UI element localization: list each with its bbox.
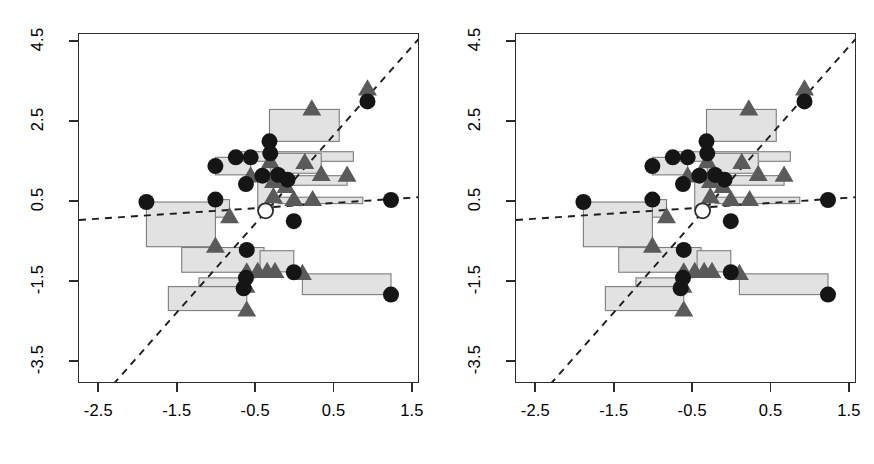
y-tick-label-text: 2.5 — [28, 97, 47, 143]
x-tick-label-right-0: -2.5 — [505, 401, 565, 420]
open-circle-group-right — [695, 203, 710, 218]
plot-area-left — [78, 33, 419, 383]
data-triangle — [358, 79, 377, 95]
y-tick-label-right-0: -3.5 — [451, 350, 497, 369]
y-tick-label-text: 4.5 — [465, 17, 484, 63]
data-point-circle — [254, 168, 270, 184]
fit-line-shallow-right — [516, 197, 856, 220]
data-point-circle — [359, 93, 375, 109]
y-tick-label-left-3: 2.5 — [14, 110, 60, 129]
data-triangle — [795, 79, 814, 95]
data-point-circle — [680, 149, 696, 165]
x-tick-left-3 — [333, 383, 335, 392]
x-tick-right-2 — [691, 383, 693, 392]
y-tick-label-text: 2.5 — [465, 97, 484, 143]
x-tick-label-left-0: -2.5 — [68, 401, 128, 420]
x-tick-label-left-4: 1.5 — [382, 401, 442, 420]
data-point-circle — [138, 194, 154, 210]
panel-left: -3.5-1.50.52.54.5-2.5-1.5-0.50.51.5 — [0, 0, 437, 464]
plot-area-right — [515, 33, 856, 383]
y-tick-label-text: -3.5 — [28, 336, 47, 382]
plot-canvas-right — [516, 34, 856, 383]
plot-canvas-left — [79, 34, 419, 383]
data-point-circle — [236, 280, 252, 296]
data-point-circle — [723, 264, 739, 280]
data-point-circle — [820, 192, 836, 208]
y-tick-label-left-1: -1.5 — [14, 270, 60, 289]
data-point-circle — [673, 280, 689, 296]
data-rectangle — [146, 202, 215, 247]
x-tick-right-4 — [848, 383, 850, 392]
data-point-circle — [383, 192, 399, 208]
y-tick-label-right-1: -1.5 — [451, 270, 497, 289]
x-tick-label-left-2: -0.5 — [225, 401, 285, 420]
y-tick-label-right-4: 4.5 — [451, 30, 497, 49]
data-point-circle — [239, 242, 255, 258]
y-tick-left-3 — [69, 120, 78, 122]
data-point-circle — [207, 192, 223, 208]
y-tick-right-2 — [506, 200, 515, 202]
x-tick-right-3 — [770, 383, 772, 392]
y-tick-left-0 — [69, 360, 78, 362]
data-triangle — [302, 99, 321, 115]
y-tick-label-left-0: -3.5 — [14, 350, 60, 369]
y-tick-left-2 — [69, 200, 78, 202]
data-point-circle — [207, 158, 223, 174]
data-point-circle — [262, 145, 278, 161]
x-tick-label-right-1: -1.5 — [584, 401, 644, 420]
x-tick-label-right-3: 0.5 — [741, 401, 801, 420]
y-tick-label-text: 0.5 — [465, 177, 484, 223]
data-point-circle — [575, 194, 591, 210]
data-rectangle — [583, 202, 652, 247]
y-tick-label-right-3: 2.5 — [451, 110, 497, 129]
data-point-circle — [383, 287, 399, 303]
data-point-circle — [286, 213, 302, 229]
y-tick-label-text: -1.5 — [28, 256, 47, 302]
data-point-circle — [665, 149, 681, 165]
y-tick-right-0 — [506, 360, 515, 362]
x-tick-label-left-3: 0.5 — [304, 401, 364, 420]
x-tick-label-right-2: -0.5 — [662, 401, 722, 420]
data-point-circle — [796, 93, 812, 109]
data-triangle — [338, 166, 357, 182]
y-tick-right-3 — [506, 120, 515, 122]
y-tick-label-right-2: 0.5 — [451, 190, 497, 209]
x-tick-label-left-1: -1.5 — [147, 401, 207, 420]
data-point-open-circle — [695, 203, 710, 218]
x-tick-left-1 — [176, 383, 178, 392]
x-tick-right-1 — [613, 383, 615, 392]
y-tick-left-4 — [69, 40, 78, 42]
y-tick-right-4 — [506, 40, 515, 42]
data-rectangle — [605, 287, 683, 311]
data-point-circle — [243, 149, 259, 165]
data-rectangle — [168, 287, 246, 311]
data-point-circle — [280, 172, 296, 188]
data-triangle — [739, 99, 758, 115]
y-tick-label-text: -3.5 — [465, 336, 484, 382]
data-point-circle — [691, 168, 707, 184]
y-tick-right-1 — [506, 280, 515, 282]
data-point-circle — [644, 192, 660, 208]
data-point-circle — [675, 176, 691, 192]
y-tick-left-1 — [69, 280, 78, 282]
x-tick-label-right-4: 1.5 — [819, 401, 874, 420]
data-point-circle — [820, 287, 836, 303]
data-triangle — [775, 166, 794, 182]
data-point-open-circle — [258, 203, 273, 218]
x-tick-left-2 — [254, 383, 256, 392]
data-point-circle — [717, 172, 733, 188]
open-circle-group-left — [258, 203, 273, 218]
data-point-circle — [676, 242, 692, 258]
panel-right: -3.5-1.50.52.54.5-2.5-1.5-0.50.51.5 — [437, 0, 874, 464]
figure-two-panel-scatter: -3.5-1.50.52.54.5-2.5-1.5-0.50.51.5 -3.5… — [0, 0, 874, 464]
data-rectangle — [739, 274, 828, 295]
data-point-circle — [699, 145, 715, 161]
x-tick-left-0 — [97, 383, 99, 392]
y-tick-label-text: -1.5 — [465, 256, 484, 302]
x-tick-right-0 — [534, 383, 536, 392]
data-point-circle — [228, 149, 244, 165]
data-rectangle — [302, 274, 391, 295]
y-tick-label-left-4: 4.5 — [14, 30, 60, 49]
fit-line-shallow-left — [79, 197, 419, 220]
data-point-circle — [723, 213, 739, 229]
